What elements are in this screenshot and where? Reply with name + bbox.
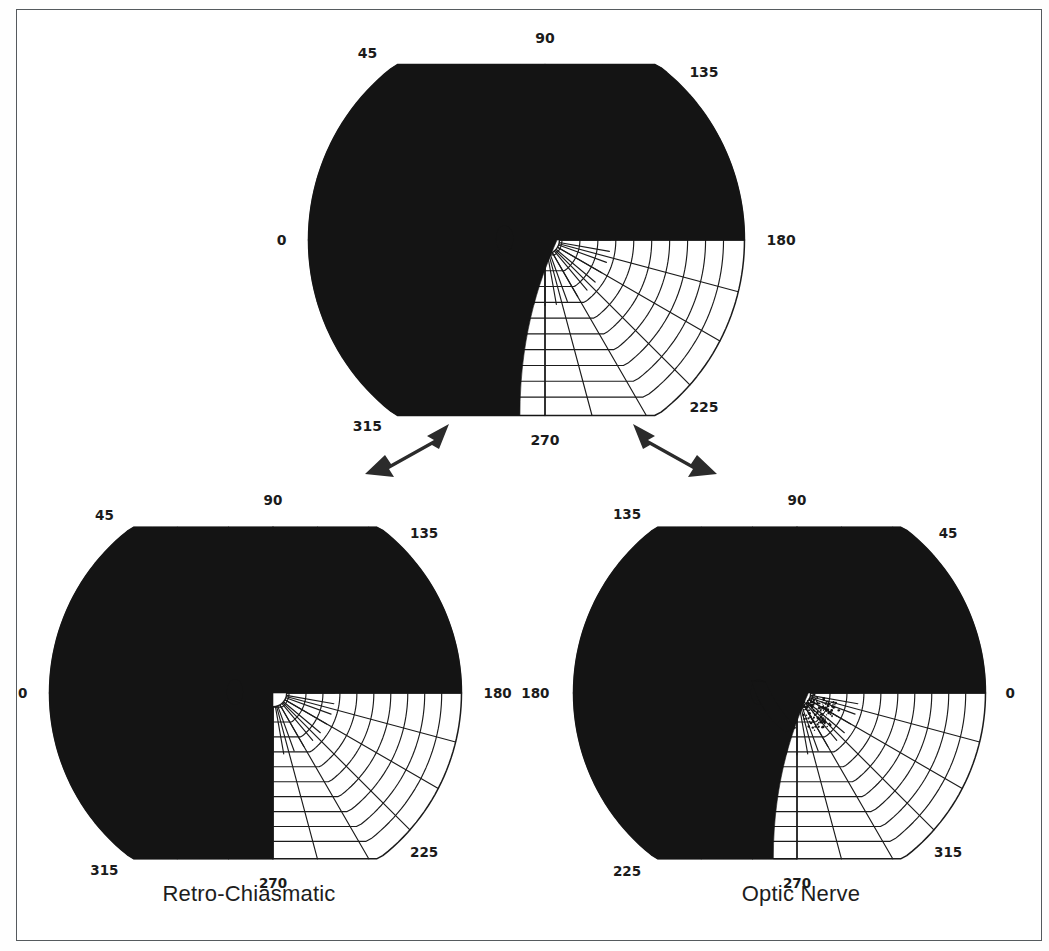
stipple-dot <box>815 714 816 715</box>
meridian-minor <box>550 254 567 302</box>
stipple-dot <box>805 708 807 710</box>
stipple-dot <box>830 713 832 715</box>
blind-spot <box>227 679 243 705</box>
meridian-major <box>277 706 318 859</box>
stipple-dot <box>822 721 824 723</box>
arrow-to-retro-chiasmatic <box>365 424 449 477</box>
stipple-dot <box>803 709 805 711</box>
stipple-dot <box>823 702 824 703</box>
binocular-field-svg: 04590135180225270315 <box>294 23 804 423</box>
stipple-dot <box>825 702 826 703</box>
stipple-dot <box>805 702 807 704</box>
stipple-dot <box>822 717 824 719</box>
stipple-dot <box>822 706 825 709</box>
stipple-dot <box>836 715 837 716</box>
stipple-dot <box>825 716 826 717</box>
stipple-dot <box>805 718 807 720</box>
stipple-dot <box>818 726 819 727</box>
retro-chiasmatic-svg: 04590135180225270315 <box>19 481 479 881</box>
stipple-dot <box>831 710 833 712</box>
stipple-dot <box>807 725 810 728</box>
stipple-dot <box>827 719 829 721</box>
meridian-minor <box>559 245 607 262</box>
figure-frame: 04590135180225270315 0459013518022527031… <box>16 9 1042 941</box>
stipple-dot <box>809 721 811 723</box>
axis-label-135: 135 <box>613 506 641 522</box>
stipple-dot <box>812 704 814 706</box>
axis-label-90: 90 <box>264 492 283 508</box>
stipple-dot <box>802 701 805 704</box>
stipple-dot <box>835 702 837 704</box>
axis-label-0: 0 <box>1006 685 1015 701</box>
stipple-dot <box>812 701 813 702</box>
retro-chiasmatic-chart: 04590135180225270315 <box>19 481 479 881</box>
stipple-dot <box>831 702 832 703</box>
stipple-dot <box>821 722 822 723</box>
axis-label-45: 45 <box>358 45 377 61</box>
axis-label-225: 225 <box>689 399 718 415</box>
stipple-dot <box>816 697 818 699</box>
stipple-dot <box>813 710 814 711</box>
stipple-dot <box>810 712 811 713</box>
stipple-dot <box>831 705 833 707</box>
stipple-dot <box>814 711 815 712</box>
stipple-dot <box>809 716 812 719</box>
field-defect-sector <box>308 65 744 416</box>
stipple-dot <box>816 711 819 714</box>
stipple-dot <box>822 698 824 700</box>
axis-label-135: 135 <box>689 64 718 80</box>
stipple-dot <box>834 707 835 708</box>
stipple-dot <box>818 707 820 709</box>
optic-nerve-chart: 18013590450315270225 <box>571 481 1031 881</box>
field-defect-sector <box>49 527 461 859</box>
stipple-dot <box>826 726 828 728</box>
stipple-dot <box>813 700 815 702</box>
stipple-dot <box>833 713 835 715</box>
stipple-dot <box>814 726 816 728</box>
blind-spot <box>496 225 513 252</box>
stipple-dot <box>818 722 820 724</box>
arrow-svg <box>331 416 751 486</box>
stipple-dot <box>803 705 806 708</box>
axis-label-90: 90 <box>788 492 807 508</box>
binocular-field-chart: 04590135180225270315 <box>294 23 804 423</box>
meridian-minor <box>278 706 294 751</box>
stipple-dot <box>820 716 823 719</box>
stipple-dot <box>826 714 827 715</box>
stipple-dot <box>821 713 823 715</box>
stipple-dot <box>816 702 819 705</box>
stipple-dot <box>807 700 808 701</box>
stipple-dot <box>811 697 813 699</box>
stipple-dot <box>837 709 839 711</box>
stipple-dot <box>819 703 821 705</box>
stipple-dot <box>806 714 808 716</box>
stipple-dot <box>813 694 815 696</box>
stipple-dot <box>821 701 823 703</box>
stipple-dot <box>809 698 811 700</box>
meridian-minor <box>286 698 331 714</box>
stipple-dot <box>812 720 814 722</box>
caption-optic-nerve: Optic Nerve <box>571 881 1031 907</box>
stipple-dot <box>806 706 809 709</box>
stipple-dot <box>812 712 814 714</box>
axis-label-315: 315 <box>934 844 962 860</box>
stipple-dot <box>824 718 826 720</box>
axis-label-0: 0 <box>18 685 27 701</box>
stipple-dot <box>816 701 817 702</box>
stipple-dot <box>834 704 836 706</box>
axis-label-225: 225 <box>613 863 641 879</box>
axis-label-180: 180 <box>521 685 549 701</box>
stipple-dot <box>820 710 822 712</box>
stipple-dot <box>829 723 831 725</box>
stipple-dot <box>823 710 824 711</box>
stipple-dot <box>815 698 817 700</box>
axis-label-45: 45 <box>939 525 958 541</box>
optic-nerve-svg: 18013590450315270225 <box>571 481 1031 881</box>
stipple-dot <box>810 705 811 706</box>
stipple-dot <box>825 703 827 705</box>
stipple-dot <box>831 715 833 717</box>
stipple-dot <box>811 710 812 711</box>
stipple-dot <box>811 706 813 708</box>
stipple-dot <box>832 701 834 703</box>
stipple-dot <box>822 726 825 729</box>
